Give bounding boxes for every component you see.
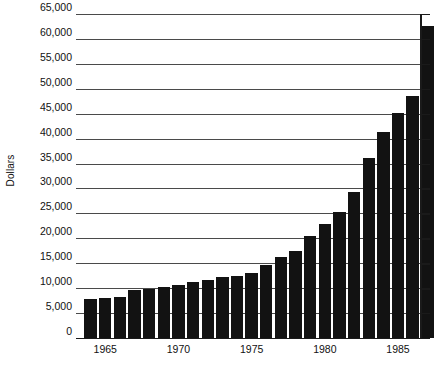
y-axis-tick-label: 20,000: [18, 226, 72, 237]
right-axis-tick: [421, 64, 430, 65]
y-axis-tick-label: 40,000: [18, 127, 72, 138]
right-axis-tick: [421, 263, 430, 264]
bar: [128, 290, 140, 338]
bar: [363, 158, 375, 338]
bar: [158, 287, 170, 338]
right-axis-tick: [421, 14, 430, 15]
bar: [392, 113, 404, 338]
bar: [319, 224, 331, 338]
y-axis-tick-label: 30,000: [18, 176, 72, 187]
x-axis-tick-label: 1980: [313, 343, 336, 356]
bar: [84, 299, 96, 338]
right-axis-tick: [421, 338, 430, 339]
bar: [421, 26, 433, 338]
x-axis-baseline: [76, 338, 427, 339]
bar: [348, 192, 360, 338]
bar: [377, 132, 389, 338]
right-axis-tick: [421, 114, 430, 115]
y-axis-title-text: Dollars: [6, 154, 17, 186]
right-axis-tick: [421, 188, 430, 189]
bar: [245, 273, 257, 338]
plot-area: [76, 14, 420, 338]
bar: [216, 277, 228, 338]
right-axis-tick: [421, 39, 430, 40]
bar-chart: Dollars 65,00060,00055,00050,00045,00040…: [0, 0, 446, 367]
right-axis-tick: [421, 139, 430, 140]
right-axis-tick: [421, 164, 430, 165]
y-axis-tick-label: 35,000: [18, 152, 72, 163]
right-axis-tick: [421, 288, 430, 289]
bar: [172, 285, 184, 338]
x-axis-tick-label: 1970: [167, 343, 190, 356]
y-axis-tick-label: 60,000: [18, 27, 72, 38]
bar: [187, 282, 199, 338]
bar: [99, 298, 111, 338]
right-axis-tick: [421, 238, 430, 239]
y-axis-tick-label: 10,000: [18, 276, 72, 287]
bar: [231, 276, 243, 338]
bar: [260, 265, 272, 338]
bar: [289, 251, 301, 338]
bar: [406, 96, 418, 338]
right-axis-line: [420, 14, 422, 339]
right-axis-tick: [421, 89, 430, 90]
y-axis-tick-label: 25,000: [18, 201, 72, 212]
x-axis-tick-labels: 19651970197519801985: [0, 343, 446, 361]
bar: [304, 236, 316, 338]
y-axis-tick-label: 15,000: [18, 251, 72, 262]
y-axis-tick-label: 0: [18, 326, 72, 337]
bar: [333, 212, 345, 338]
y-axis-tick-label: 55,000: [18, 52, 72, 63]
bar: [114, 297, 126, 338]
bar: [143, 289, 155, 338]
bar: [202, 280, 214, 338]
right-axis-tick: [421, 313, 430, 314]
y-axis-tick-label: 45,000: [18, 102, 72, 113]
right-axis-tick: [421, 213, 430, 214]
x-axis-tick-label: 1975: [240, 343, 263, 356]
y-axis-tick-labels: 65,00060,00055,00050,00045,00040,00035,0…: [18, 0, 72, 367]
y-axis-tick-label: 65,000: [18, 2, 72, 13]
y-axis-tick-label: 5,000: [18, 301, 72, 312]
bar-series: [76, 14, 420, 338]
x-axis-tick-label: 1985: [386, 343, 409, 356]
x-axis-tick-label: 1965: [94, 343, 117, 356]
bar: [275, 257, 287, 338]
y-axis-tick-label: 50,000: [18, 77, 72, 88]
